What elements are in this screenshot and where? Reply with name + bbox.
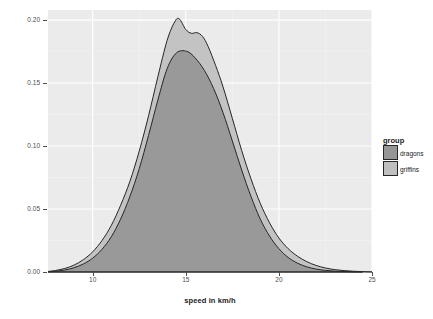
y-tick-label: 0.20	[0, 16, 40, 23]
y-tick-mark	[43, 20, 47, 21]
x-tick-label: 10	[78, 276, 108, 283]
y-tick-mark	[43, 83, 47, 84]
y-tick: 0.10	[0, 142, 40, 152]
legend-title: group	[383, 136, 404, 145]
density-plot-figure: probability speed in km/h 0.000.050.100.…	[0, 0, 433, 319]
plot-canvas	[0, 0, 433, 319]
y-tick: 0.00	[0, 268, 40, 278]
y-tick-label: 0.10	[0, 142, 40, 149]
x-tick-label: 15	[171, 276, 201, 283]
y-tick: 0.15	[0, 79, 40, 89]
y-tick-mark	[43, 272, 47, 273]
x-tick-label: 25	[357, 276, 387, 283]
y-tick-label: 0.00	[0, 268, 40, 275]
y-tick-mark	[43, 146, 47, 147]
y-tick: 0.20	[0, 16, 40, 26]
legend-swatch-dragons	[383, 145, 398, 160]
legend-swatch-griffins	[383, 161, 398, 176]
x-tick-label: 20	[264, 276, 294, 283]
y-tick-label: 0.15	[0, 79, 40, 86]
y-tick-mark	[43, 209, 47, 210]
legend-label-griffins: griffins	[400, 166, 419, 173]
y-tick: 0.05	[0, 205, 40, 215]
y-tick-label: 0.05	[0, 205, 40, 212]
x-axis-title: speed in km/h	[48, 296, 372, 305]
legend-label-dragons: dragons	[400, 150, 424, 157]
